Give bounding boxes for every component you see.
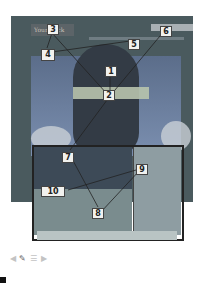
callout-4: 4: [41, 49, 55, 61]
corner-marker: [0, 277, 6, 283]
callout-1: 1: [105, 66, 117, 77]
top-controls: [151, 24, 193, 31]
list-icon[interactable]: ☰: [30, 254, 37, 263]
callout-3: 3: [47, 24, 59, 35]
callout-9: 9: [136, 164, 148, 175]
back-arrow-icon[interactable]: ◀: [10, 254, 16, 263]
callout-8: 8: [92, 208, 104, 219]
forward-arrow-icon[interactable]: ▶: [41, 254, 47, 263]
footer-strip: [37, 231, 177, 240]
callout-6: 6: [160, 26, 172, 37]
pencil-icon[interactable]: ✎: [19, 254, 26, 263]
callout-7: 7: [62, 152, 74, 163]
callout-10: 10: [41, 186, 65, 197]
callout-5: 5: [128, 39, 140, 50]
callout-2: 2: [103, 90, 115, 101]
